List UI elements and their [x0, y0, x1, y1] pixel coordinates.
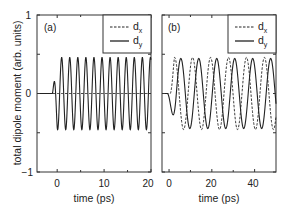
- xtick-label-b-0: 0: [166, 178, 172, 189]
- panel-a-legend: dx dy: [103, 15, 151, 53]
- y-axis-label: total dipole moment (arb. units): [11, 21, 23, 166]
- ytick-label-0: 0: [25, 88, 31, 99]
- panel-b-curves: [162, 57, 276, 129]
- panel-a-label: (a): [44, 22, 56, 33]
- panel-b-legend: dx dy: [228, 15, 276, 53]
- panel-b-label: (b): [168, 22, 180, 33]
- panel-a: (a) dx dy 1 0 −1 0 10 20 time (ps): [22, 10, 154, 204]
- figure: total dipole moment (arb. units) (a) dx …: [0, 0, 287, 212]
- xtick-label-a-10: 10: [98, 178, 110, 189]
- xtick-label-a-0: 0: [54, 178, 60, 189]
- panel-a-curves: [37, 57, 151, 129]
- panel-b: (b) dx dy 0 20 40 time (ps): [162, 15, 276, 204]
- x-axis-label-b: time (ps): [199, 192, 240, 204]
- ytick-label-neg1: −1: [22, 167, 34, 178]
- x-axis-label-a: time (ps): [74, 192, 115, 204]
- xtick-label-a-20: 20: [142, 178, 154, 189]
- xtick-label-b-20: 20: [205, 178, 217, 189]
- ytick-label-1: 1: [25, 10, 31, 21]
- xtick-label-b-40: 40: [247, 178, 259, 189]
